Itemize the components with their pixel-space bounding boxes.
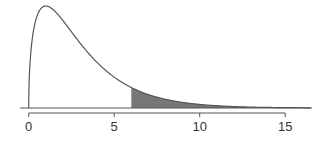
x-tick-label: 15 xyxy=(278,119,292,134)
chi-square-chart: 051015 xyxy=(0,0,326,141)
x-tick-label: 0 xyxy=(25,119,32,134)
x-tick-label: 10 xyxy=(192,119,206,134)
x-tick-label: 5 xyxy=(111,119,118,134)
density-curve xyxy=(29,6,311,108)
plot-area xyxy=(20,6,312,108)
x-axis: 051015 xyxy=(25,113,292,134)
